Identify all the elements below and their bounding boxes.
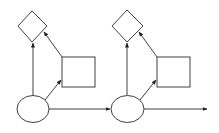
ellipse-node-2[interactable] — [111, 96, 144, 123]
square-node-1[interactable] — [62, 57, 95, 87]
arrow-ellipse-2-to-square-2 — [140, 80, 156, 100]
shapes-group — [17, 10, 190, 123]
diamond-node-1[interactable] — [18, 11, 47, 42]
arrow-square-1-to-diamond-1 — [44, 32, 62, 57]
arrow-square-2-to-diamond-2 — [139, 32, 157, 57]
diamond-node-2[interactable] — [112, 10, 143, 42]
square-node-2[interactable] — [157, 57, 190, 87]
ellipse-node-1[interactable] — [17, 96, 49, 123]
flow-diagram — [0, 0, 219, 133]
arrow-ellipse-1-to-square-1 — [45, 80, 61, 100]
